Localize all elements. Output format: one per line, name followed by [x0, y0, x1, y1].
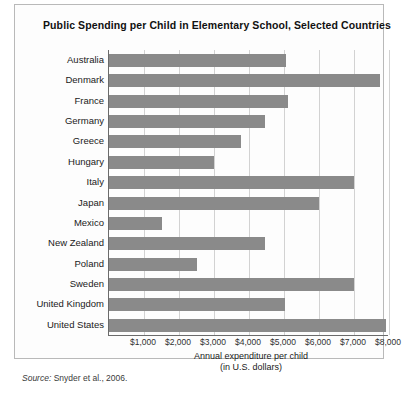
- bar-row: [109, 274, 388, 296]
- category-label-poland: Poland: [16, 258, 104, 269]
- bar-row: [109, 70, 388, 92]
- category-label-hungary: Hungary: [16, 156, 104, 167]
- bar-germany: [109, 115, 265, 128]
- source-label: Source:: [22, 373, 51, 383]
- category-label-new-zealand: New Zealand: [16, 237, 104, 248]
- category-label-denmark: Denmark: [16, 74, 104, 85]
- x-tick-label-7000: $7,000: [340, 337, 366, 347]
- x-axis-title-line1: Annual expenditure per child: [194, 351, 308, 361]
- bar-row: [109, 294, 388, 316]
- x-axis-title-line2: (in U.S. dollars): [108, 362, 394, 373]
- bar-australia: [109, 54, 286, 67]
- chart-panel: Public Spending per Child in Elementary …: [14, 4, 384, 359]
- x-tick-label-4000: $4,000: [235, 337, 261, 347]
- source-note: Source: Snyder et al., 2006.: [22, 373, 127, 383]
- category-label-france: France: [16, 95, 104, 106]
- bar-united-states: [109, 319, 386, 332]
- bar-row: [109, 152, 388, 174]
- x-tick-label-8000: $8,000: [375, 337, 401, 347]
- bar-row: [109, 111, 388, 133]
- bar-row: [109, 254, 388, 276]
- y-axis-category-labels: AustraliaDenmarkFranceGermanyGreeceHunga…: [15, 50, 104, 335]
- category-label-germany: Germany: [16, 115, 104, 126]
- x-tick-label-6000: $6,000: [305, 337, 331, 347]
- bar-united-kingdom: [109, 298, 285, 311]
- category-label-japan: Japan: [16, 197, 104, 208]
- bar-row: [109, 50, 388, 72]
- bar-row: [109, 91, 388, 113]
- x-tick-label-3000: $3,000: [200, 337, 226, 347]
- bar-hungary: [109, 156, 214, 169]
- plot-area: [108, 50, 388, 336]
- category-label-united-states: United States: [16, 319, 104, 330]
- category-label-italy: Italy: [16, 176, 104, 187]
- bar-france: [109, 95, 288, 108]
- x-tick-label-5000: $5,000: [270, 337, 296, 347]
- bar-row: [109, 172, 388, 194]
- bar-sweden: [109, 278, 354, 291]
- category-label-sweden: Sweden: [16, 278, 104, 289]
- bar-italy: [109, 176, 354, 189]
- category-label-greece: Greece: [16, 135, 104, 146]
- x-tick-label-2000: $2,000: [165, 337, 191, 347]
- bar-mexico: [109, 217, 162, 230]
- bar-row: [109, 131, 388, 153]
- x-tick-label-1000: $1,000: [130, 337, 156, 347]
- chart-title: Public Spending per Child in Elementary …: [43, 19, 393, 31]
- category-label-australia: Australia: [16, 54, 104, 65]
- x-axis-tick-labels: $1,000$2,000$3,000$4,000$5,000$6,000$7,0…: [15, 337, 406, 351]
- bar-poland: [109, 258, 197, 271]
- bar-japan: [109, 197, 319, 210]
- bar-row: [109, 193, 388, 215]
- bar-denmark: [109, 74, 380, 87]
- bar-row: [109, 315, 388, 337]
- bar-greece: [109, 135, 241, 148]
- gridline-8000: [389, 50, 390, 335]
- bar-row: [109, 213, 388, 235]
- category-label-mexico: Mexico: [16, 217, 104, 228]
- category-label-united-kingdom: United Kingdom: [16, 298, 104, 309]
- bar-new-zealand: [109, 237, 265, 250]
- bar-row: [109, 233, 388, 255]
- source-text: Snyder et al., 2006.: [51, 373, 127, 383]
- x-axis-title: Annual expenditure per child (in U.S. do…: [108, 351, 394, 373]
